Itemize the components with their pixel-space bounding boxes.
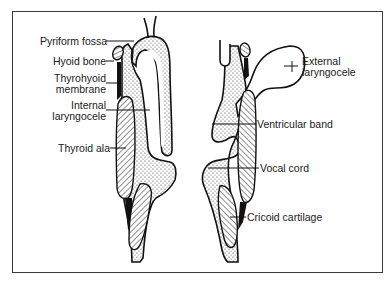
label-ventricular-band: Ventricular band	[257, 119, 333, 130]
left-top-tube	[144, 16, 156, 38]
right-thyroid-ala-shape	[238, 90, 256, 202]
label-external-line2: laryngocele	[302, 67, 356, 78]
thyrohyoid-membrane-shape	[117, 62, 121, 100]
label-cricoid-cartilage: Cricoid cartilage	[247, 212, 322, 223]
right-section	[202, 40, 304, 262]
label-pyriform-fossa: Pyriform fossa	[40, 36, 106, 47]
label-internal-line2: laryngocele	[40, 111, 106, 122]
right-top-tube	[220, 40, 230, 66]
left-section	[106, 16, 176, 262]
label-hyoid-bone: Hyoid bone	[40, 56, 106, 67]
label-thyroid-ala: Thyroid ala	[40, 143, 110, 154]
label-external-laryngocele: External laryngocele	[302, 56, 356, 78]
label-vocal-cord: Vocal cord	[260, 163, 309, 174]
label-thyrohyoid-membrane: Thyrohyoid membrane	[40, 73, 106, 95]
label-internal-laryngocele: Internal laryngocele	[40, 100, 106, 122]
label-thyrohyoid-line2: membrane	[40, 84, 106, 95]
